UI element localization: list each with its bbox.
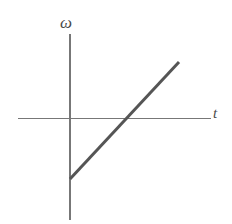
plot-canvas <box>0 0 232 224</box>
angular-velocity-vs-time-figure: ω t <box>0 0 232 224</box>
y-axis-label: ω <box>60 14 72 31</box>
x-axis-label: t <box>213 106 217 121</box>
omega-vs-time-line <box>70 62 179 179</box>
